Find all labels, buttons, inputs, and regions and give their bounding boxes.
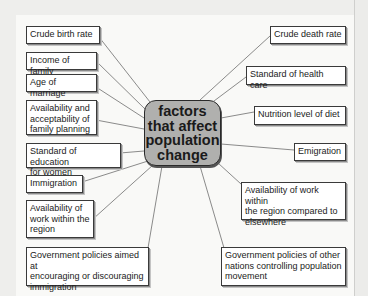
factor-income-of-family: Income of family xyxy=(26,52,97,70)
factor-crude-death-rate: Crude death rate xyxy=(270,26,346,44)
factor-nutrition: Nutrition level of diet xyxy=(254,106,346,125)
factor-crude-birth-rate: Crude birth rate xyxy=(26,26,100,44)
factor-immigration: Immigration xyxy=(26,175,83,193)
factor-age-of-marriage: Age of marriage xyxy=(26,74,97,92)
central-topic: factors that affect population change xyxy=(144,100,221,166)
factor-health-care: Standard of health care xyxy=(246,66,346,85)
factor-government-immigration-policy: Government policies aimed at encouraging… xyxy=(26,247,149,286)
factor-emigration: Emigration xyxy=(294,143,346,161)
factor-education-for-women: Standard of education for women xyxy=(26,143,121,168)
factor-other-nations-policies: Government policies of other nations con… xyxy=(221,247,346,286)
factor-work-within-region: Availability of work within the region xyxy=(26,200,94,238)
factor-family-planning: Availability and acceptability of family… xyxy=(26,100,97,135)
factor-work-compared-elsewhere: Availability of work within the region c… xyxy=(241,182,346,220)
